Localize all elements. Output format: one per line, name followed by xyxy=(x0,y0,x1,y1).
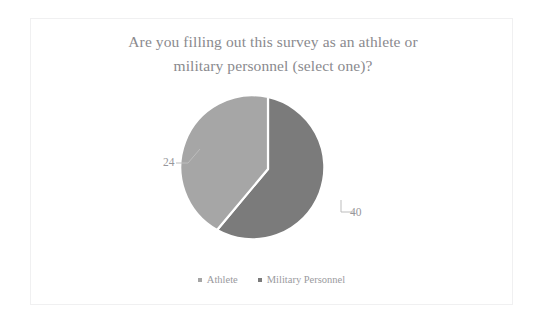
chart-title: Are you filling out this survey as an at… xyxy=(48,30,498,78)
legend-swatch-military-personnel xyxy=(258,278,262,282)
pie-chart-graphic xyxy=(150,90,390,255)
data-label-athlete: 24 xyxy=(163,156,175,168)
legend-item-military-personnel[interactable]: Military Personnel xyxy=(258,274,345,285)
chart-legend: Athlete Military Personnel xyxy=(30,274,513,285)
legend-item-athlete[interactable]: Athlete xyxy=(198,274,238,285)
legend-swatch-athlete xyxy=(198,278,202,282)
pie-plot-area xyxy=(150,90,390,255)
data-label-military-personnel: 40 xyxy=(350,206,362,218)
chart-canvas: Are you filling out this survey as an at… xyxy=(0,0,542,321)
legend-label-athlete: Athlete xyxy=(207,274,238,285)
legend-label-military-personnel: Military Personnel xyxy=(267,274,345,285)
